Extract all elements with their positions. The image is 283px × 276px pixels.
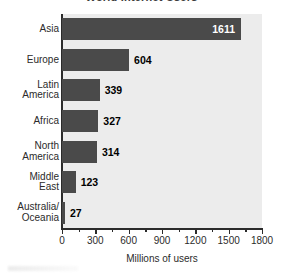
category-label: MiddleEast	[30, 172, 59, 193]
x-tick-minor	[145, 228, 146, 232]
category-label-line: Europe	[27, 55, 59, 66]
x-tick-label: 300	[87, 235, 104, 246]
bar-australia-oceania	[62, 202, 65, 224]
bar-value-label: 604	[134, 55, 152, 66]
bar-value-label: 1611	[212, 24, 235, 35]
category-label: Africa	[33, 116, 59, 127]
x-tick-label: 1800	[251, 235, 273, 246]
x-tick-major	[162, 228, 163, 234]
category-label: Australia/Oceania	[17, 202, 59, 223]
x-tick-label: 900	[154, 235, 171, 246]
bar-value-label: 339	[105, 85, 123, 96]
bar-row: 604	[62, 49, 262, 71]
bar-europe	[62, 49, 129, 71]
bar-chart-figure: World Internet Users 1611604339327314123…	[0, 0, 283, 276]
x-tick-minor	[79, 228, 80, 232]
x-tick-major	[62, 228, 63, 234]
x-tick-label: 1200	[184, 235, 206, 246]
bar-middle-east	[62, 171, 76, 193]
x-tick-label: 0	[59, 235, 65, 246]
category-label: Europe	[27, 55, 59, 66]
category-label-line: Oceania	[17, 213, 59, 224]
category-label: LatinAmerica	[22, 80, 59, 101]
x-tick-label: 600	[120, 235, 137, 246]
bar-value-label: 327	[103, 116, 121, 127]
category-label-line: America	[22, 90, 59, 101]
bar-value-label: 123	[81, 177, 99, 188]
bar-row: 27	[62, 202, 262, 224]
bar-north-america	[62, 141, 97, 163]
x-tick-major	[262, 228, 263, 234]
x-tick-minor	[179, 228, 180, 232]
x-tick-minor	[112, 228, 113, 232]
bar-row: 123	[62, 171, 262, 193]
x-axis-title: Millions of users	[62, 253, 262, 264]
bar-value-label: 27	[70, 207, 82, 218]
bar-row: 327	[62, 110, 262, 132]
x-tick-minor	[245, 228, 246, 232]
bar-row: 314	[62, 141, 262, 163]
bar-row: 339	[62, 79, 262, 101]
x-tick-major	[129, 228, 130, 234]
x-tick-major	[195, 228, 196, 234]
category-label: Asia	[40, 24, 59, 35]
x-tick-label: 1500	[218, 235, 240, 246]
x-tick-major	[95, 228, 96, 234]
category-label-line: Asia	[40, 24, 59, 35]
bar-row: 1611	[62, 18, 262, 40]
bar-africa	[62, 110, 98, 132]
page-edge-artifact	[8, 266, 78, 271]
bar-latin-america	[62, 79, 100, 101]
bar-value-label: 314	[102, 146, 120, 157]
category-label-line: North	[22, 141, 59, 152]
x-tick-major	[229, 228, 230, 234]
chart-title: World Internet Users	[0, 0, 283, 3]
category-label: NorthAmerica	[22, 141, 59, 162]
category-label-line: East	[30, 182, 59, 193]
x-tick-minor	[212, 228, 213, 232]
category-label-line: America	[22, 152, 59, 163]
category-label-line: Africa	[33, 116, 59, 127]
